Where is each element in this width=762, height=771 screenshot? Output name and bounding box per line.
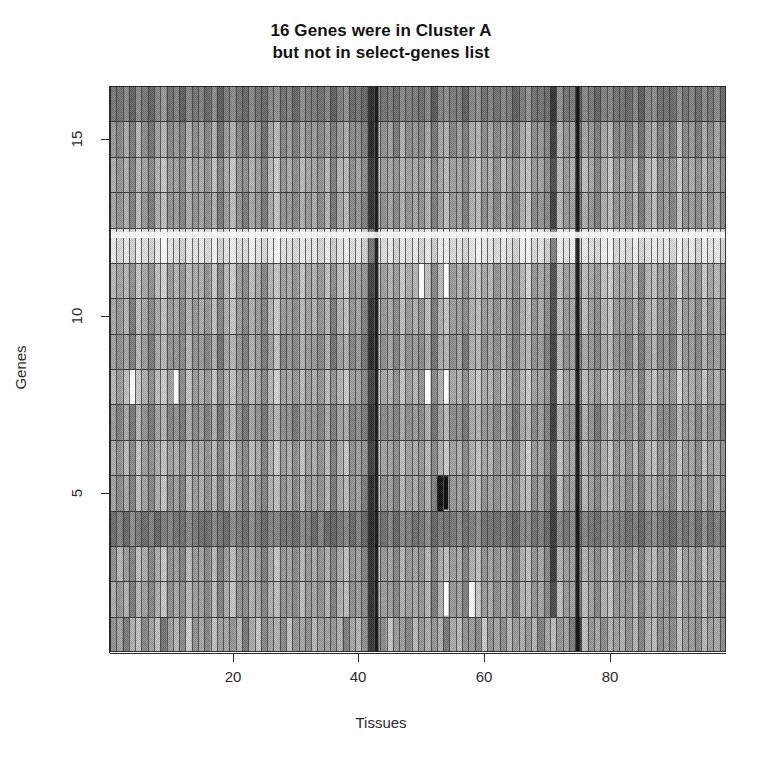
figure-title-line-2: but not in select-genes list (0, 42, 762, 64)
x-tick-label: 40 (328, 668, 388, 685)
heatmap-plot-panel (110, 86, 726, 652)
y-tick-label: 5 (67, 478, 87, 508)
y-axis-line (109, 86, 110, 653)
y-tick-mark (101, 493, 109, 494)
x-axis-line (110, 653, 726, 654)
heatmap-figure: 16 Genes were in Cluster A but not in se… (0, 0, 762, 771)
heatmap-cells (110, 86, 726, 652)
y-tick-label: 10 (67, 301, 87, 331)
x-tick-mark (610, 654, 611, 662)
x-tick-mark (484, 654, 485, 662)
figure-title-line-1: 16 Genes were in Cluster A (0, 20, 762, 42)
x-tick-label: 80 (580, 668, 640, 685)
x-tick-mark (233, 654, 234, 662)
y-tick-label: 15 (67, 124, 87, 154)
y-tick-mark (101, 316, 109, 317)
y-tick-mark (101, 139, 109, 140)
x-tick-mark (358, 654, 359, 662)
figure-title: 16 Genes were in Cluster A but not in se… (0, 20, 762, 64)
x-tick-label: 60 (454, 668, 514, 685)
y-axis-title: Genes (12, 308, 29, 428)
x-axis-title: Tissues (0, 714, 762, 731)
x-tick-label: 20 (203, 668, 263, 685)
